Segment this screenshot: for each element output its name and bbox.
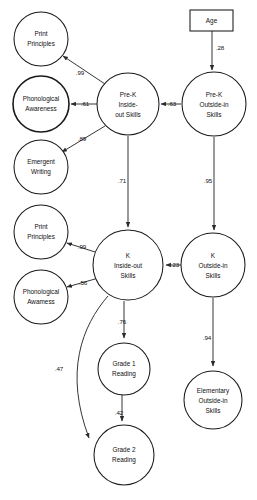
node-label-line3: Skills <box>206 407 221 414</box>
node-label-line2: Awareness <box>25 105 57 112</box>
node-k-outside-in-skills[interactable]: K Outside-in Skills <box>181 233 245 297</box>
node-label-line1: Emergent <box>27 158 55 166</box>
node-label-line3: out Skills <box>115 111 141 118</box>
node-print-principles-k[interactable]: Print Principles <box>14 205 68 259</box>
node-k-inside-out-skills[interactable]: K Inside-out Skills <box>93 230 163 300</box>
node-prek-outside-in-skills[interactable]: Pre-K Outside-in Skills <box>182 72 246 136</box>
node-label-line3: Skills <box>206 272 221 279</box>
sem-path-diagram: .28 .63 .99 .61 .89 .71 .95 .23 .99 .56 … <box>0 0 257 500</box>
path-label-prek-outside-to-k-outside: .95 <box>204 177 213 184</box>
path-label-prek-inside-to-k-inside: .71 <box>118 177 127 184</box>
node-elementary-outside-in-skills[interactable]: Elementary Outside-in Skills <box>184 371 242 429</box>
node-label-line1: Elementary <box>197 387 230 395</box>
node-label-line1: Age <box>206 17 218 25</box>
node-label-line3: Skills <box>207 111 222 118</box>
node-label-line2: Reading <box>112 456 136 464</box>
node-label-line2: Inside-out <box>114 262 142 269</box>
node-label-line1: Grade 1 <box>112 360 136 367</box>
node-label-line1: Grade 2 <box>112 446 136 453</box>
node-label-line2: Inside- <box>118 101 137 108</box>
path-diagram-canvas: .28 .63 .99 .61 .89 .71 .95 .23 .99 .56 … <box>0 0 257 500</box>
node-label-line1: K <box>211 252 216 259</box>
path-label-grade1-to-grade2: .42 <box>115 409 124 416</box>
path-label-k-inside-to-grade1: .76 <box>118 318 127 325</box>
node-label-line2: Reading <box>112 370 136 378</box>
node-age[interactable]: Age <box>190 10 233 31</box>
node-phonological-awareness-prek[interactable]: Phonological Awareness <box>13 76 69 132</box>
node-label-line2: Outside-in <box>198 262 228 269</box>
node-label-line1: Print <box>34 223 47 230</box>
node-label-line2: Principles <box>27 233 55 241</box>
node-label-line2: Awamess <box>27 298 55 305</box>
node-emergent-writing[interactable]: Emergent Writing <box>14 140 68 194</box>
nodes-group: Print Principles Phonological Awareness … <box>13 10 246 485</box>
node-label-line2: Principles <box>27 40 55 48</box>
node-prek-inside-out-skills[interactable]: Pre-K Inside- out Skills <box>97 73 159 135</box>
path-label-prek-inside-to-print-principles: .99 <box>76 69 85 76</box>
node-phonological-awareness-k[interactable]: Phonological Awamess <box>14 270 68 324</box>
node-label-line2: Writing <box>31 168 51 176</box>
path-label-k-inside-to-grade2: .47 <box>55 365 64 372</box>
path-label-k-inside-to-phonological: .56 <box>79 279 88 286</box>
node-label-line1: Phonological <box>23 288 60 296</box>
node-grade1-reading[interactable]: Grade 1 Reading <box>98 343 150 395</box>
path-label-k-outside-to-k-inside: .23 <box>171 261 180 268</box>
node-print-principles-prek[interactable]: Print Principles <box>14 12 68 66</box>
path-label-prek-inside-to-phonological: .61 <box>81 100 90 107</box>
node-label-line3: Skills <box>121 272 136 279</box>
node-label-line1: Print <box>34 30 47 37</box>
node-label-line1: Pre-K <box>206 91 223 98</box>
node-label-line2: Outside-in <box>199 101 229 108</box>
path-label-k-outside-to-elementary: .94 <box>203 334 212 341</box>
node-label-line1: Phonological <box>23 95 60 103</box>
path-label-prek-outside-to-prek-inside: .63 <box>168 100 177 107</box>
node-label-line2: Outside-in <box>198 397 228 404</box>
path-label-prek-inside-to-emergent-writing: .89 <box>78 135 87 142</box>
node-label-line1: Pre-K <box>120 91 137 98</box>
path-label-k-inside-to-print-principles: .99 <box>78 243 87 250</box>
node-grade2-reading[interactable]: Grade 2 Reading <box>94 425 154 485</box>
node-label-line1: K <box>126 252 131 259</box>
path-label-age-to-prek-outside: .28 <box>216 44 225 51</box>
